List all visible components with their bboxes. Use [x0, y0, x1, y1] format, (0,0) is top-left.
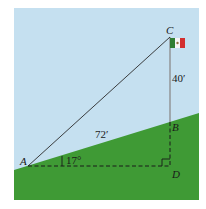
label-point-C: C — [166, 24, 174, 36]
label-point-B: B — [172, 121, 179, 133]
label-BC-length: 40′ — [172, 72, 185, 84]
flag-icon — [170, 38, 185, 48]
triangle-diagram: C B A D 40′ 72′ 17° — [0, 0, 206, 209]
label-point-D: D — [171, 168, 180, 180]
label-angle-A: 17° — [66, 154, 81, 166]
label-point-A: A — [19, 155, 27, 167]
label-AB-length: 72′ — [95, 128, 108, 140]
